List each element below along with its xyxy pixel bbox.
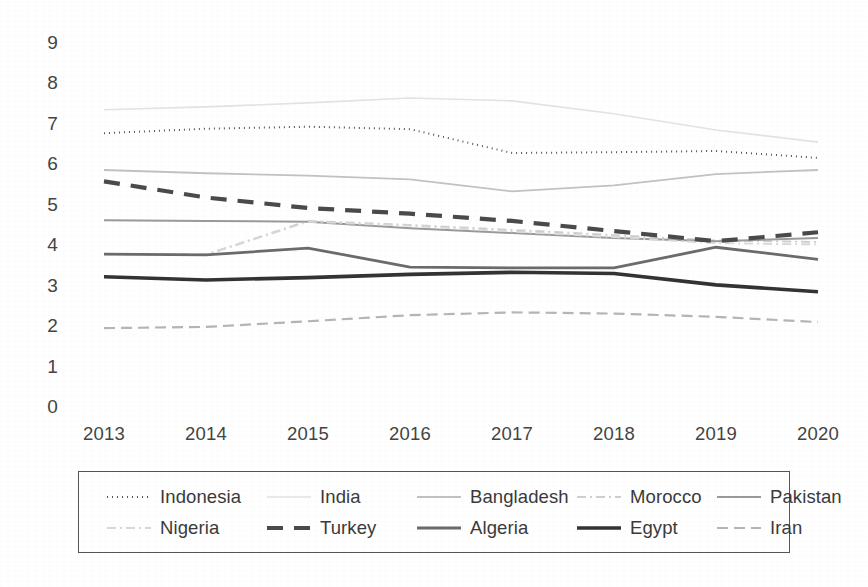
y-axis-tick-label: 6: [18, 154, 58, 173]
x-axis: 20132014201520162017201820192020: [86, 423, 840, 451]
series-line-egypt: [104, 272, 818, 291]
y-axis-tick-label: 3: [18, 276, 58, 295]
legend-label: Turkey: [320, 518, 376, 538]
legend-label: Pakistan: [770, 487, 842, 507]
plot-area: [86, 30, 840, 420]
legend: IndonesiaIndiaBangladeshMoroccoPakistan …: [78, 471, 790, 553]
y-axis-tick-label: 1: [18, 357, 58, 376]
legend-row: IndonesiaIndiaBangladeshMoroccoPakistan: [93, 481, 777, 512]
y-axis-tick-label: 7: [18, 114, 58, 133]
x-axis-tick-label: 2014: [161, 423, 251, 445]
legend-label: Nigeria: [160, 518, 219, 538]
y-axis-tick-label: 2: [18, 316, 58, 335]
y-axis-tick-label: 4: [18, 235, 58, 254]
legend-label: Morocco: [630, 487, 702, 507]
y-axis-tick-label: 0: [18, 397, 58, 416]
legend-item-india[interactable]: India: [267, 481, 361, 512]
x-axis-tick-label: 2018: [569, 423, 659, 445]
legend-label: India: [320, 487, 361, 507]
legend-item-turkey[interactable]: Turkey: [267, 512, 376, 543]
legend-swatch-pakistan-icon: [717, 490, 761, 504]
legend-label: Bangladesh: [470, 487, 569, 507]
x-axis-tick-label: 2016: [365, 423, 455, 445]
legend-label: Indonesia: [160, 487, 241, 507]
series-line-pakistan: [104, 220, 818, 241]
legend-row: NigeriaTurkeyAlgeriaEgyptIran: [93, 512, 777, 543]
series-line-indonesia: [104, 127, 818, 158]
x-axis-tick-label: 2017: [467, 423, 557, 445]
legend-label: Iran: [770, 518, 802, 538]
legend-label: Algeria: [470, 518, 528, 538]
x-axis-tick-label: 2020: [773, 423, 863, 445]
legend-item-nigeria[interactable]: Nigeria: [107, 512, 219, 543]
legend-swatch-morocco-icon: [577, 490, 621, 504]
y-axis-tick-label: 9: [18, 33, 58, 52]
series-line-iran: [104, 312, 818, 328]
legend-item-morocco[interactable]: Morocco: [577, 481, 702, 512]
legend-item-pakistan[interactable]: Pakistan: [717, 481, 842, 512]
x-axis-tick-label: 2019: [671, 423, 761, 445]
legend-swatch-iran-icon: [717, 521, 761, 535]
line-chart: 9876543210 20132014201520162017201820192…: [0, 0, 868, 587]
x-axis-tick-label: 2015: [263, 423, 353, 445]
legend-item-algeria[interactable]: Algeria: [417, 512, 528, 543]
series-line-bangladesh: [104, 170, 818, 191]
legend-swatch-egypt-icon: [577, 521, 621, 535]
legend-label: Egypt: [630, 518, 678, 538]
legend-swatch-bangladesh-icon: [417, 490, 461, 504]
legend-item-bangladesh[interactable]: Bangladesh: [417, 481, 569, 512]
series-line-turkey: [104, 181, 818, 241]
series-line-algeria: [104, 247, 818, 268]
legend-swatch-india-icon: [267, 490, 311, 504]
legend-swatch-nigeria-icon: [107, 521, 151, 535]
legend-item-indonesia[interactable]: Indonesia: [107, 481, 241, 512]
legend-swatch-algeria-icon: [417, 521, 461, 535]
x-axis-tick-label: 2013: [59, 423, 149, 445]
legend-item-egypt[interactable]: Egypt: [577, 512, 678, 543]
y-axis-tick-label: 8: [18, 73, 58, 92]
y-axis-tick-label: 5: [18, 195, 58, 214]
series-line-india: [104, 98, 818, 142]
legend-swatch-turkey-icon: [267, 521, 311, 535]
legend-item-iran[interactable]: Iran: [717, 512, 802, 543]
legend-swatch-indonesia-icon: [107, 490, 151, 504]
series-lines: [86, 30, 840, 420]
